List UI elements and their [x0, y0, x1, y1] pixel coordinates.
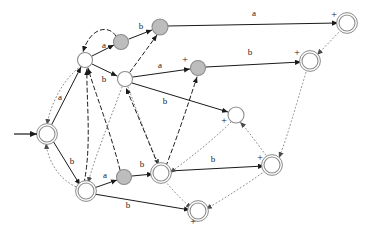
state-gray-lower[interactable] [117, 170, 132, 185]
accepting-plus-mark: + [257, 152, 263, 163]
edge-label: b [102, 74, 107, 84]
edge-n2-n3-b [129, 30, 152, 39]
state-circle [152, 19, 168, 35]
state-circle [39, 126, 55, 142]
state-center-upper[interactable] [118, 72, 133, 87]
state-circle [78, 53, 93, 68]
edge-label: a [58, 92, 62, 102]
edge-n2-n1-back [83, 29, 116, 52]
state-upper-left[interactable] [78, 53, 93, 68]
edge-n4-n5-a [133, 69, 190, 77]
edge-n9-n13-dot [206, 171, 265, 209]
state-center-lower[interactable] [151, 163, 172, 184]
edge-label: b [140, 159, 145, 169]
state-accept-upper[interactable]: + [294, 47, 320, 71]
accepting-plus-mark: + [331, 9, 337, 20]
accepting-plus-mark: + [294, 47, 300, 58]
state-circle [339, 15, 355, 31]
edge-n4-n10-dot [88, 87, 122, 183]
edge-label: b [211, 154, 216, 164]
edge-n4-n8-b [132, 83, 228, 112]
accepting-plus-mark: + [182, 54, 188, 65]
edge-n9-n8-dot [240, 122, 268, 158]
state-circle [302, 53, 318, 69]
edge-label: b [126, 200, 131, 210]
edge-n0-n1-sol [51, 67, 81, 126]
edge-label: a [252, 8, 256, 18]
state-circle [78, 183, 94, 199]
nodes-layer: ++++++ [37, 9, 358, 227]
accepting-plus-mark: + [190, 216, 196, 227]
edge-n12-n13-dot [165, 181, 192, 208]
state-gray-mid[interactable]: + [182, 54, 205, 76]
edge-label: b [139, 21, 144, 31]
edge-n7-n9-dot [279, 69, 307, 158]
edge-label: b [163, 96, 168, 106]
accepting-plus-mark: + [221, 115, 227, 126]
state-circle [153, 165, 169, 181]
edge-n5-n7-b [206, 62, 301, 67]
state-circle [118, 72, 133, 87]
state-accept-bottom[interactable]: + [188, 201, 209, 227]
edge-n4-n3-dash [130, 35, 157, 72]
edge-n6-n7-dot [317, 30, 341, 55]
state-lower-left[interactable] [76, 181, 97, 202]
edge-n0-n1-dot [47, 66, 81, 125]
edge-label: b [70, 156, 75, 166]
edge-n10-n13-b [94, 194, 190, 210]
state-circle [117, 170, 132, 185]
state-circle [114, 35, 129, 50]
state-circle [191, 61, 206, 76]
edge-n12-n9-b [169, 166, 264, 171]
edge-label: a [103, 170, 107, 180]
edge-label: a [158, 60, 162, 70]
state-accept-right[interactable]: + [257, 152, 282, 175]
edge-n4-n12-dot [128, 87, 159, 165]
automaton-canvas: ++++++ abababbababbb [0, 0, 374, 233]
state-start[interactable] [37, 124, 58, 145]
state-circle [264, 157, 280, 173]
state-accept-top[interactable]: + [331, 9, 357, 33]
edge-label: a [102, 40, 106, 50]
state-gray-top-b[interactable] [152, 19, 168, 35]
automaton-figure: ++++++ abababbababbb [0, 0, 374, 233]
state-circle [228, 107, 244, 123]
edge-n12-n5-dash [166, 77, 197, 166]
edge-n3-n6-a [168, 23, 338, 26]
edge-n10-n11-a [94, 180, 117, 188]
edge-n12-n4-dash [126, 88, 158, 165]
edge-n0-n10-b [53, 141, 80, 185]
edge-n11-n12-b [132, 174, 153, 176]
edge-label: b [248, 47, 253, 57]
edge-n10-n1-dash [84, 69, 88, 183]
state-gray-top-a[interactable] [114, 35, 129, 50]
